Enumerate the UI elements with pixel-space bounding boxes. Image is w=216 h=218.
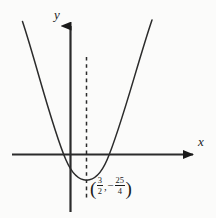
- close-paren: ): [126, 178, 132, 199]
- x-coordinate-fraction: 32: [97, 176, 103, 196]
- y-fraction-numerator: 25: [115, 176, 126, 186]
- minus-sign: −: [107, 179, 114, 191]
- x-axis-label: x: [198, 135, 204, 148]
- y-coordinate-fraction: 254: [115, 176, 126, 196]
- parabola-figure: y x (32,−254): [0, 0, 216, 218]
- y-fraction-denominator: 4: [115, 186, 126, 195]
- y-axis-label: y: [54, 8, 60, 21]
- vertex-coordinate-label: (32,−254): [90, 176, 132, 198]
- x-fraction-denominator: 2: [97, 186, 103, 195]
- x-fraction-numerator: 3: [97, 176, 103, 186]
- parabola-curve: [23, 20, 153, 180]
- open-paren: (: [90, 178, 96, 199]
